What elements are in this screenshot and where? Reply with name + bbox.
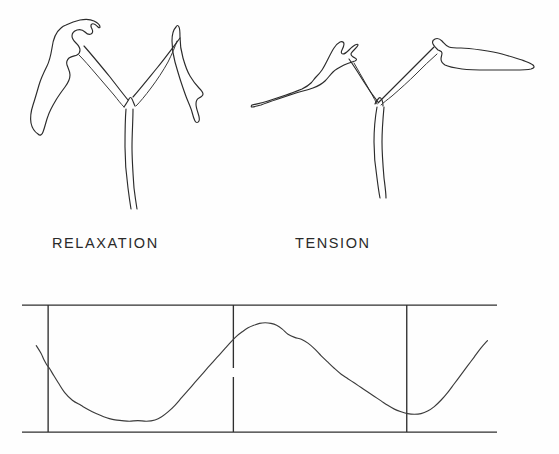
tension-right-petiole [378, 47, 434, 103]
figure-root: RELAXATION TENSION [0, 0, 559, 454]
relaxation-left-lobe-midrib [79, 55, 124, 107]
label-relaxation: RELAXATION [52, 235, 159, 251]
recording-trace-svg [0, 280, 559, 454]
relaxation-left-lobe-outline [31, 19, 100, 135]
label-tension: TENSION [295, 235, 371, 251]
tension-left-lobe-outline [251, 42, 358, 107]
tension-right-lobe-midrib [381, 54, 437, 105]
trace-series-trace [36, 323, 487, 421]
trace-series [36, 323, 487, 421]
trace-cycle-markers [48, 305, 407, 432]
specimen-relaxation-drawing [31, 19, 203, 209]
relaxation-right-lobe-outline [172, 26, 203, 123]
tension-left-petiole [349, 59, 378, 102]
relaxation-central-node [124, 98, 135, 108]
tension-right-lobe-outline [433, 39, 534, 70]
specimen-tension-drawing [251, 39, 534, 198]
trace-frame [22, 305, 497, 432]
relaxation-right-petiole [133, 38, 180, 97]
recording-trace-panel [0, 280, 559, 454]
specimen-drawings-svg [0, 0, 559, 215]
specimen-labels-panel: RELAXATION TENSION [0, 215, 559, 280]
specimen-drawings-panel [0, 0, 559, 215]
relaxation-left-petiole [84, 46, 128, 100]
tension-stem-left-edge [374, 107, 380, 198]
relaxation-stem-left-edge [125, 109, 131, 209]
relaxation-stem-right-edge [132, 109, 137, 209]
tension-stem-right-edge [382, 107, 386, 198]
